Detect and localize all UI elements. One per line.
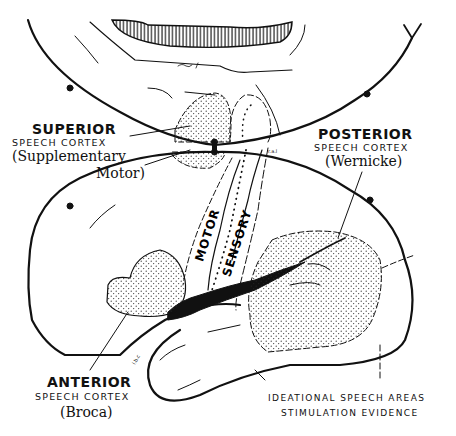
posterior-note: (Wernicke): [325, 153, 402, 169]
brain-speech-areas-diagram: r.a.l i.b.c SUPERIOR SPEECH CORTEX (Supp…: [0, 0, 456, 436]
anterior-note: (Broca): [60, 404, 113, 420]
anterior-title: ANTERIOR: [47, 374, 131, 390]
superior-note-line2: Motor): [96, 165, 145, 181]
superior-speech-cortex-region: [175, 93, 231, 142]
superior-subtitle: SPEECH CORTEX: [12, 137, 107, 148]
posterior-subtitle: SPEECH CORTEX: [314, 142, 409, 153]
posterior-title: POSTERIOR: [318, 126, 413, 142]
svg-text:r.a.l: r.a.l: [268, 148, 277, 154]
medial-fissure-hatch: [112, 20, 292, 47]
superior-title: SUPERIOR: [32, 121, 116, 137]
posterior-leader-line: [338, 172, 362, 238]
brain-drawing: r.a.l i.b.c: [0, 0, 456, 436]
svg-text:i.b.c: i.b.c: [131, 353, 142, 365]
anterior-subtitle: SPEECH CORTEX: [35, 391, 130, 402]
anterior-speech-cortex-region: [107, 250, 186, 317]
superior-note-line1: (Supplementary: [12, 148, 126, 164]
caption-line1: IDEATIONAL SPEECH AREAS: [268, 393, 425, 403]
anterior-leader-line: [90, 312, 128, 370]
posterior-speech-cortex-region: [249, 231, 382, 352]
caption-line2: STIMULATION EVIDENCE: [281, 408, 419, 418]
